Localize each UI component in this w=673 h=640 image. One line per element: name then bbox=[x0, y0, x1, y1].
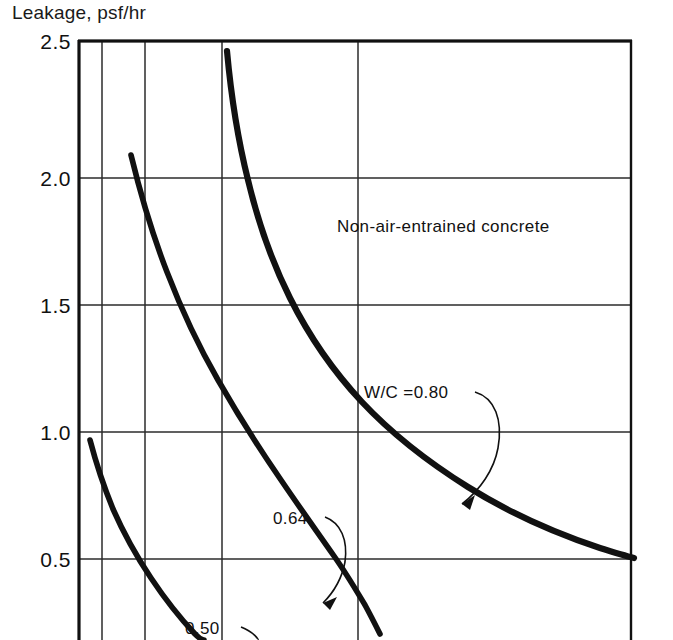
y-tick-label-1-0: 1.0 bbox=[40, 421, 71, 444]
y-tick-label-1-5: 1.5 bbox=[40, 294, 71, 317]
curve-wc-050 bbox=[90, 440, 204, 640]
leakage-chart-figure: Leakage, psf/hr 2.5 2.0 1.5 1 bbox=[0, 0, 673, 640]
y-tick-label-2-5: 2.5 bbox=[40, 30, 71, 53]
curve-annotations: W/C =0.80 0.64 0.50 bbox=[185, 383, 499, 640]
curve-label-wc-064: 0.64 bbox=[273, 509, 308, 528]
y-tick-label-0-5: 0.5 bbox=[40, 548, 71, 571]
vertical-gridlines bbox=[102, 41, 358, 640]
leader-arrowhead-wc-064 bbox=[323, 597, 337, 610]
axis-frame bbox=[78, 40, 632, 640]
curve-label-wc-080: W/C =0.80 bbox=[364, 383, 448, 402]
data-curves bbox=[90, 51, 634, 640]
chart-canvas: 2.5 2.0 1.5 1.0 0.5 Non-air-entrained co… bbox=[0, 0, 673, 640]
y-tick-labels: 2.5 2.0 1.5 1.0 0.5 bbox=[40, 30, 71, 571]
y-tick-label-2-0: 2.0 bbox=[40, 167, 71, 190]
curve-label-wc-050: 0.50 bbox=[185, 619, 220, 638]
note-non-air-entrained: Non-air-entrained concrete bbox=[337, 217, 550, 236]
horizontal-gridlines bbox=[78, 41, 632, 559]
leader-line-wc-050 bbox=[241, 627, 258, 640]
